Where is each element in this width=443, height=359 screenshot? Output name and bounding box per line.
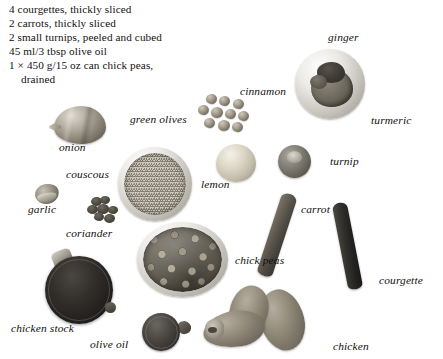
label-turmeric: turmeric	[371, 114, 411, 126]
couscous-bowl-photo	[118, 147, 192, 221]
ingredient-line: 4 courgettes, thickly sliced	[9, 2, 224, 16]
label-lemon: lemon	[201, 178, 230, 190]
ingredient-line: drained	[9, 72, 224, 86]
coriander-leaf	[100, 196, 110, 204]
bowl-inner	[124, 153, 186, 215]
tin-rim	[48, 259, 110, 321]
lemon-photo	[216, 144, 256, 182]
bowl-inner	[143, 227, 222, 292]
turnip-photo	[278, 145, 311, 178]
label-onion: onion	[59, 141, 86, 153]
chicken-bone-notch	[208, 327, 217, 333]
olive	[211, 107, 223, 118]
coriander-leaf	[104, 214, 115, 223]
olive	[238, 111, 249, 121]
pot-rim	[145, 316, 178, 349]
coriander-photo	[85, 196, 121, 226]
ingredient-line: 2 small turnips, peeled and cubed	[9, 30, 224, 44]
tin-handle	[105, 302, 116, 313]
label-cinnamon: cinnamon	[240, 85, 286, 97]
ingredients-photo-page: 4 courgettes, thickly sliced 2 carrots, …	[0, 0, 443, 359]
label-olive-oil: olive oil	[90, 338, 128, 350]
ingredient-list: 4 courgettes, thickly sliced 2 carrots, …	[9, 2, 224, 87]
olive	[204, 118, 215, 128]
couscous-grains	[124, 153, 186, 215]
label-chicken-stock: chicken stock	[11, 322, 74, 334]
olive	[206, 94, 217, 104]
label-courgette: courgette	[379, 274, 423, 286]
ingredient-line: 2 carrots, thickly sliced	[9, 16, 224, 30]
label-chicken: chicken	[333, 340, 369, 352]
label-turnip: turnip	[330, 155, 359, 167]
olive	[232, 122, 243, 132]
lemon-body	[216, 144, 256, 182]
olive	[225, 109, 236, 119]
ingredient-line: 45 ml/3 tbsp olive oil	[9, 44, 224, 58]
courgette-photo	[326, 200, 376, 300]
chicken-stock-photo	[45, 256, 113, 324]
cinnamon-piece	[310, 75, 327, 89]
chick-peas-content	[143, 227, 222, 292]
green-olives-photo	[192, 94, 250, 134]
label-ginger: ginger	[328, 31, 359, 43]
olive	[233, 99, 244, 109]
label-couscous: couscous	[66, 168, 109, 180]
onion-photo	[54, 106, 106, 144]
label-chick-peas: chick peas	[235, 254, 284, 266]
ingredient-line: 1 × 450 g/15 oz can chick peas,	[9, 58, 224, 72]
label-garlic: garlic	[28, 203, 56, 215]
olive	[219, 96, 230, 106]
label-carrot: carrot	[301, 203, 330, 215]
label-green-olives: green olives	[130, 113, 187, 125]
garlic-photo	[35, 184, 59, 204]
olive-oil-pot-photo	[142, 313, 180, 351]
olive	[218, 120, 230, 131]
coriander-leaf	[108, 206, 118, 214]
onion-highlight	[54, 106, 106, 144]
label-coriander: coriander	[66, 227, 112, 239]
olive	[198, 105, 209, 115]
courgette-body	[332, 201, 364, 290]
chicken-photo	[203, 285, 313, 357]
coriander-leaf	[94, 213, 104, 221]
spice-bowl-photo	[295, 49, 365, 119]
